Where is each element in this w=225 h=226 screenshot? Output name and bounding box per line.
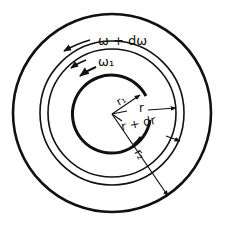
radius-r-line (148, 108, 176, 110)
label-omega-plus-domega: ω + dω (98, 33, 147, 48)
label-omega-1: ω₁ (98, 54, 114, 69)
label-r: r (139, 101, 144, 115)
label-r-plus-dr: r + dr (120, 113, 157, 134)
label-r1: r₁ (114, 93, 128, 109)
label-r2: r₂ (131, 147, 148, 163)
radius-r-dr-line (166, 136, 180, 141)
concentric-cylinders-diagram: ω + dω ω₁ r₁ r r + dr r₂ (0, 0, 225, 226)
rotation-arrow-inner-icon (80, 67, 96, 76)
